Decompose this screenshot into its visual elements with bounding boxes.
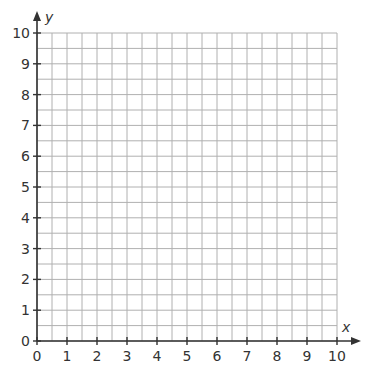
- x-tick-label: 4: [153, 348, 162, 364]
- y-tick-label: 0: [21, 333, 30, 349]
- y-tick-label: 6: [21, 148, 30, 164]
- x-tick-label: 3: [123, 348, 132, 364]
- y-tick-label: 1: [21, 302, 30, 318]
- tick-marks: [33, 33, 337, 345]
- grid-lines: [37, 33, 337, 341]
- y-tick-label: 9: [21, 56, 30, 72]
- y-tick-label: 4: [21, 210, 30, 226]
- x-tick-label: 7: [243, 348, 252, 364]
- y-tick-label: 8: [21, 87, 30, 103]
- x-axis-label: x: [341, 319, 351, 335]
- y-tick-label: 2: [21, 271, 30, 287]
- y-tick-label: 3: [21, 241, 30, 257]
- x-tick-label: 2: [93, 348, 102, 364]
- x-tick-label: 5: [183, 348, 192, 364]
- x-tick-label: 9: [303, 348, 312, 364]
- y-axis-arrow-icon: [33, 11, 41, 21]
- tick-labels: 012345678910012345678910: [12, 25, 346, 364]
- x-tick-label: 0: [33, 348, 42, 364]
- x-tick-label: 10: [328, 348, 346, 364]
- x-tick-label: 6: [213, 348, 222, 364]
- y-axis-label: y: [44, 9, 54, 25]
- y-tick-label: 5: [21, 179, 30, 195]
- x-tick-label: 1: [63, 348, 72, 364]
- x-tick-label: 8: [273, 348, 282, 364]
- coordinate-grid-chart: 012345678910012345678910 x y: [0, 0, 370, 375]
- y-tick-label: 10: [12, 25, 30, 41]
- x-axis-arrow-icon: [351, 337, 361, 345]
- y-tick-label: 7: [21, 117, 30, 133]
